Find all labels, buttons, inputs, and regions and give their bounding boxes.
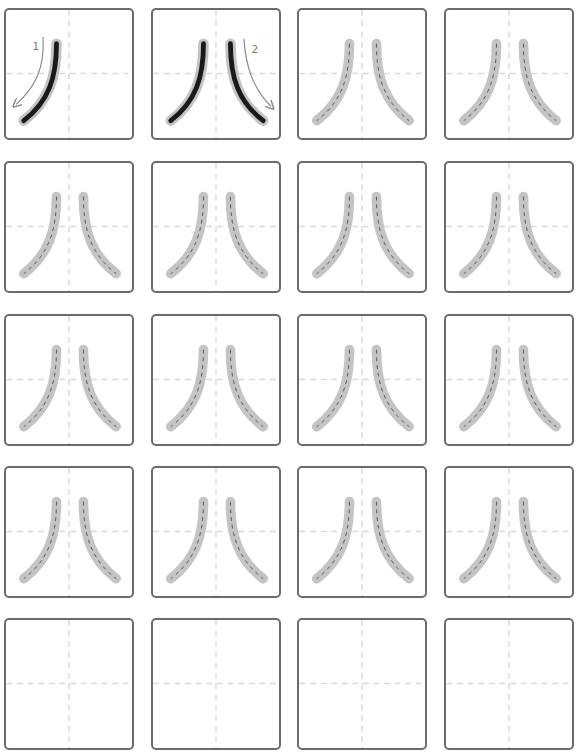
cell-grid-icon	[446, 163, 572, 291]
blank-practice-cell	[297, 618, 427, 750]
cell-grid-icon	[299, 10, 425, 138]
cell-grid-icon	[299, 468, 425, 596]
stroke-order-cell: 2	[151, 8, 281, 140]
trace-practice-cell	[151, 314, 281, 446]
blank-practice-cell	[151, 618, 281, 750]
cell-grid-icon	[153, 620, 279, 748]
svg-text:1: 1	[32, 40, 39, 52]
cell-grid-icon	[299, 620, 425, 748]
trace-practice-cell	[444, 8, 574, 140]
svg-text:2: 2	[252, 43, 259, 55]
cell-grid-icon	[153, 163, 279, 291]
trace-practice-cell	[4, 314, 134, 446]
trace-practice-cell	[4, 466, 134, 598]
cell-grid-icon	[446, 316, 572, 444]
cell-grid-icon	[299, 316, 425, 444]
cell-grid-icon	[6, 620, 132, 748]
cell-grid-icon	[446, 620, 572, 748]
cell-grid-icon	[6, 163, 132, 291]
cell-grid-icon: 2	[153, 10, 279, 138]
cell-grid-icon	[6, 468, 132, 596]
blank-practice-cell	[4, 618, 134, 750]
trace-practice-cell	[151, 466, 281, 598]
trace-practice-cell	[444, 161, 574, 293]
cell-grid-icon	[446, 468, 572, 596]
stroke-order-cell: 1	[4, 8, 134, 140]
cell-grid-icon	[153, 316, 279, 444]
trace-practice-cell	[297, 8, 427, 140]
cell-grid-icon	[446, 10, 572, 138]
trace-practice-cell	[297, 314, 427, 446]
trace-practice-cell	[444, 314, 574, 446]
blank-practice-cell	[444, 618, 574, 750]
trace-practice-cell	[4, 161, 134, 293]
cell-grid-icon	[299, 163, 425, 291]
trace-practice-cell	[444, 466, 574, 598]
cell-grid-icon	[153, 468, 279, 596]
trace-practice-cell	[151, 161, 281, 293]
trace-practice-cell	[297, 466, 427, 598]
cell-grid-icon	[6, 316, 132, 444]
cell-grid-icon: 1	[6, 10, 132, 138]
trace-practice-cell	[297, 161, 427, 293]
